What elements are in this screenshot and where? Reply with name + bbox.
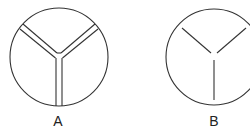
figure-a [10, 8, 108, 106]
figure-a-label: A [48, 113, 68, 129]
figure-b [166, 9, 250, 105]
figure-a-circle [10, 8, 108, 106]
figure-b-label: B [204, 113, 224, 129]
figure-b-circle [166, 9, 250, 105]
